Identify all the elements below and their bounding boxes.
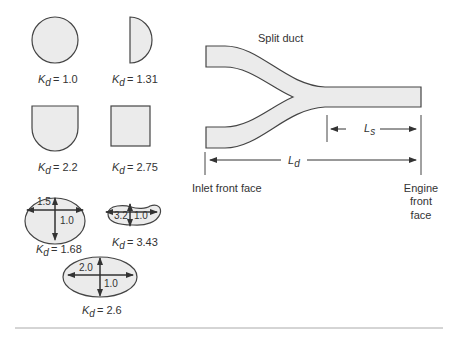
svg-text:Kd= 1.68: Kd= 1.68 bbox=[36, 243, 82, 258]
svg-text:1.0: 1.0 bbox=[60, 215, 74, 226]
svg-text:Kd= 1.0: Kd= 1.0 bbox=[38, 73, 78, 88]
diagram-canvas: Kd= 1.0 Kd= 1.31 Kd= 2.2 Kd= 2.75 1.5 1.… bbox=[0, 0, 458, 339]
shape-kidney: 3.2 1.0 Kd= 3.43 bbox=[106, 204, 161, 251]
duct-title: Split duct bbox=[258, 32, 303, 44]
engine-label-3: face bbox=[411, 209, 432, 221]
svg-text:1.0: 1.0 bbox=[104, 278, 118, 289]
shape-half-circle: Kd= 1.31 bbox=[112, 17, 158, 88]
shape-square: Kd= 2.75 bbox=[111, 106, 158, 176]
svg-text:1.0: 1.0 bbox=[134, 210, 148, 221]
svg-text:Kd= 2.6: Kd= 2.6 bbox=[82, 304, 122, 319]
ls-dimension: Ls bbox=[327, 115, 416, 142]
svg-text:3.2: 3.2 bbox=[114, 210, 128, 221]
svg-text:Kd= 2.75: Kd= 2.75 bbox=[112, 161, 158, 176]
svg-text:2.0: 2.0 bbox=[79, 262, 93, 273]
engine-label-1: Engine bbox=[404, 182, 438, 194]
svg-text:Ls: Ls bbox=[364, 122, 375, 137]
shape-circle: Kd= 1.0 bbox=[32, 17, 78, 88]
engine-label-2: front bbox=[410, 195, 432, 207]
svg-text:1.5: 1.5 bbox=[37, 196, 51, 207]
shape-d: Kd= 2.2 bbox=[32, 106, 78, 176]
svg-text:Kd= 3.43: Kd= 3.43 bbox=[112, 236, 158, 251]
svg-text:Kd= 1.31: Kd= 1.31 bbox=[112, 73, 158, 88]
svg-text:Ld: Ld bbox=[288, 154, 300, 169]
split-duct: Split duct bbox=[206, 32, 421, 148]
inlet-label: Inlet front face bbox=[192, 182, 262, 194]
svg-text:Kd= 2.2: Kd= 2.2 bbox=[38, 161, 78, 176]
shape-ellipse-1-5: 1.5 1.0 Kd= 1.68 bbox=[25, 196, 85, 258]
shape-ellipse-2-0: 2.0 1.0 Kd= 2.6 bbox=[63, 257, 137, 319]
